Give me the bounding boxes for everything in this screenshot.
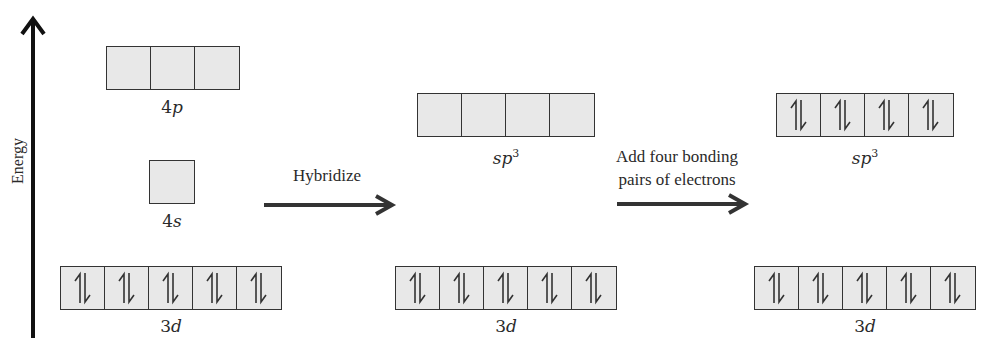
orbital-box-paired bbox=[777, 94, 821, 136]
orbital-4p-boxes bbox=[106, 46, 240, 90]
orbital-3d-label-initial: 3d bbox=[121, 318, 221, 335]
electron-pair-arrows-icon bbox=[583, 271, 605, 305]
orbital-box-paired bbox=[105, 267, 149, 309]
orbital-box-empty bbox=[151, 47, 195, 89]
orbital-4s-box bbox=[149, 160, 195, 204]
orbital-box-empty bbox=[550, 94, 594, 136]
orbital-box-paired bbox=[193, 267, 237, 309]
energy-axis-label: Energy bbox=[9, 131, 27, 191]
electron-pair-arrows-icon bbox=[942, 271, 964, 305]
electron-pair-arrows-icon bbox=[495, 271, 517, 305]
orbital-3d-label-hybridized: 3d bbox=[456, 318, 556, 335]
electron-pair-arrows-icon bbox=[854, 271, 876, 305]
electron-pair-arrows-icon bbox=[766, 271, 788, 305]
orbital-box-paired bbox=[528, 267, 572, 309]
orbital-box-paired bbox=[909, 94, 953, 136]
orbital-box-paired bbox=[843, 267, 887, 309]
orbital-4p-label: 4p bbox=[122, 99, 222, 116]
electron-pair-arrows-icon bbox=[898, 271, 920, 305]
orbital-3d-label-bonded: 3d bbox=[815, 318, 915, 335]
orbital-box-empty bbox=[150, 161, 194, 203]
orbital-box-paired bbox=[484, 267, 528, 309]
orbital-box-empty bbox=[462, 94, 506, 136]
electron-pair-arrows-icon bbox=[451, 271, 473, 305]
orbital-box-paired bbox=[755, 267, 799, 309]
orbital-3d-boxes-hybridized bbox=[395, 266, 617, 310]
add-electrons-caption-line2: pairs of electrons bbox=[592, 168, 762, 191]
orbital-box-empty bbox=[195, 47, 239, 89]
orbital-box-empty bbox=[418, 94, 462, 136]
electron-pair-arrows-icon bbox=[539, 271, 561, 305]
add-electrons-caption-line1: Add four bonding bbox=[592, 145, 762, 168]
electron-pair-arrows-icon bbox=[204, 271, 226, 305]
orbital-3d-boxes-bonded bbox=[754, 266, 976, 310]
orbital-4s-label: 4s bbox=[122, 213, 222, 230]
electron-pair-arrows-icon bbox=[832, 98, 854, 132]
electron-pair-arrows-icon bbox=[72, 271, 94, 305]
orbital-box-paired bbox=[61, 267, 105, 309]
add-electrons-caption: Add four bonding pairs of electrons bbox=[592, 145, 762, 191]
electron-pair-arrows-icon bbox=[810, 271, 832, 305]
orbital-box-paired bbox=[931, 267, 975, 309]
orbital-box-paired bbox=[799, 267, 843, 309]
electron-pair-arrows-icon bbox=[876, 98, 898, 132]
orbital-3d-boxes-initial bbox=[60, 266, 282, 310]
orbital-box-paired bbox=[440, 267, 484, 309]
orbital-box-paired bbox=[887, 267, 931, 309]
electron-pair-arrows-icon bbox=[407, 271, 429, 305]
orbital-box-paired bbox=[237, 267, 281, 309]
orbital-box-paired bbox=[821, 94, 865, 136]
orbital-box-empty bbox=[107, 47, 151, 89]
hybridize-arrow bbox=[262, 194, 398, 218]
orbital-sp3-boxes-hybridized bbox=[417, 93, 595, 137]
orbital-box-empty bbox=[506, 94, 550, 136]
orbital-sp3-label-bonded: sp3 bbox=[815, 148, 915, 167]
orbital-box-paired bbox=[572, 267, 616, 309]
electron-pair-arrows-icon bbox=[248, 271, 270, 305]
add-electrons-arrow bbox=[615, 193, 751, 217]
electron-pair-arrows-icon bbox=[788, 98, 810, 132]
orbital-box-paired bbox=[149, 267, 193, 309]
electron-pair-arrows-icon bbox=[920, 98, 942, 132]
orbital-sp3-label-hybridized: sp3 bbox=[456, 148, 556, 167]
hybridize-caption: Hybridize bbox=[262, 164, 392, 187]
orbital-sp3-boxes-bonded bbox=[776, 93, 954, 137]
electron-pair-arrows-icon bbox=[116, 271, 138, 305]
orbital-box-paired bbox=[865, 94, 909, 136]
electron-pair-arrows-icon bbox=[160, 271, 182, 305]
orbital-box-paired bbox=[396, 267, 440, 309]
